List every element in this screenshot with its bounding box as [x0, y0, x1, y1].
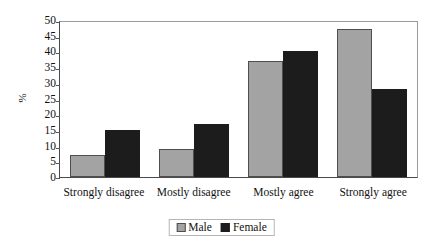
bar-pair: [328, 22, 417, 177]
legend-item-label: Female: [233, 221, 267, 233]
y-axis-tick-mark: [56, 132, 60, 133]
chart-legend: MaleFemale: [168, 219, 275, 236]
y-axis-tick-label: 30: [30, 78, 56, 90]
y-axis-tick-mark: [56, 22, 60, 23]
legend-item-label: Male: [188, 221, 212, 233]
bar-pair: [239, 22, 328, 177]
bar-pair: [149, 22, 238, 177]
y-axis-tick-label: 25: [30, 94, 56, 106]
x-axis-category-label: Strongly disagree: [59, 186, 149, 198]
y-axis-tick-labels: 05101520253035404550: [30, 21, 56, 178]
y-axis-tick-mark: [56, 116, 60, 117]
bar-female[interactable]: [194, 124, 229, 177]
x-axis-category-label: Strongly agree: [328, 186, 418, 198]
bar-male[interactable]: [248, 61, 283, 177]
y-axis-tick-mark: [56, 69, 60, 70]
y-axis-tick-mark: [56, 163, 60, 164]
y-axis-tick-label: 0: [30, 172, 56, 184]
y-axis-tick-label: 50: [30, 15, 56, 27]
y-axis-tick-label: 10: [30, 141, 56, 153]
bar-groups: [60, 22, 417, 177]
bar-female[interactable]: [283, 51, 318, 177]
y-axis-tick-mark: [56, 148, 60, 149]
x-axis-category-labels: Strongly disagreeMostly disagreeMostly a…: [59, 186, 418, 198]
y-axis-tick-mark: [56, 38, 60, 39]
bar-male[interactable]: [337, 29, 372, 177]
female-swatch-icon: [221, 223, 230, 232]
y-axis-tick-label: 20: [30, 109, 56, 121]
y-axis-tick-mark: [56, 53, 60, 54]
bar-male[interactable]: [159, 149, 194, 177]
y-axis-tick-label: 40: [30, 47, 56, 59]
bar-chart: % 05101520253035404550 Strongly disagree…: [0, 0, 443, 250]
y-axis-tick-label: 45: [30, 31, 56, 43]
bar-group: [239, 22, 328, 177]
bar-male[interactable]: [70, 155, 105, 177]
bar-group: [328, 22, 417, 177]
bar-pair: [60, 22, 149, 177]
plot-area: [59, 21, 418, 178]
male-swatch-icon: [176, 223, 185, 232]
bar-female[interactable]: [105, 130, 140, 177]
legend-item[interactable]: Male: [176, 221, 212, 233]
y-axis-tick-mark: [56, 85, 60, 86]
y-axis-tick-label: 35: [30, 62, 56, 74]
y-axis-title: %: [16, 88, 28, 108]
y-axis-tick-mark: [56, 101, 60, 102]
bar-group: [60, 22, 149, 177]
legend-item[interactable]: Female: [221, 221, 267, 233]
y-axis-tick-mark: [56, 178, 60, 179]
x-axis-category-label: Mostly agree: [239, 186, 329, 198]
bar-group: [149, 22, 238, 177]
y-axis-tick-label: 15: [30, 125, 56, 137]
y-axis-tick-label: 5: [30, 157, 56, 169]
bar-female[interactable]: [372, 89, 407, 177]
x-axis-category-label: Mostly disagree: [149, 186, 239, 198]
